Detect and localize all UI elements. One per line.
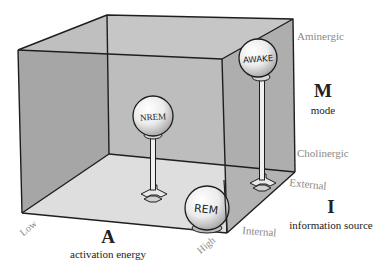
a-axis-name: activation energy [70,248,146,260]
cholinergic-label: Cholinergic [297,147,349,159]
aminergic-label: Aminergic [297,30,344,42]
rem-label: REM [193,202,218,217]
low-label: Low [18,217,40,238]
external-label: External [289,176,327,192]
m-axis-name: mode [311,104,336,116]
i-axis-letter: I [327,196,334,217]
internal-label: Internal [242,224,277,238]
high-label: High [195,234,217,255]
i-axis-name: information source [289,219,373,231]
m-axis-letter: M [314,80,332,101]
aim-cube-diagram: NREM AWAKE REM Aminergic M mode Choliner… [0,0,389,271]
awake-label: AWAKE [243,53,274,65]
nrem-label: NREM [140,111,167,122]
a-axis-letter: A [101,226,115,247]
